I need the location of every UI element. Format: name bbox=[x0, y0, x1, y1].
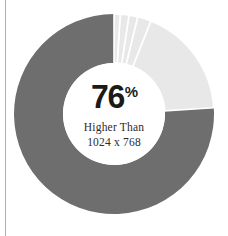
donut-chart: 76% Higher Than 1024 x 768 bbox=[0, 0, 228, 236]
resolution-donut-figure: 76% Higher Than 1024 x 768 bbox=[0, 0, 228, 236]
donut-chart-svg bbox=[14, 14, 214, 214]
donut-hole bbox=[63, 63, 165, 165]
